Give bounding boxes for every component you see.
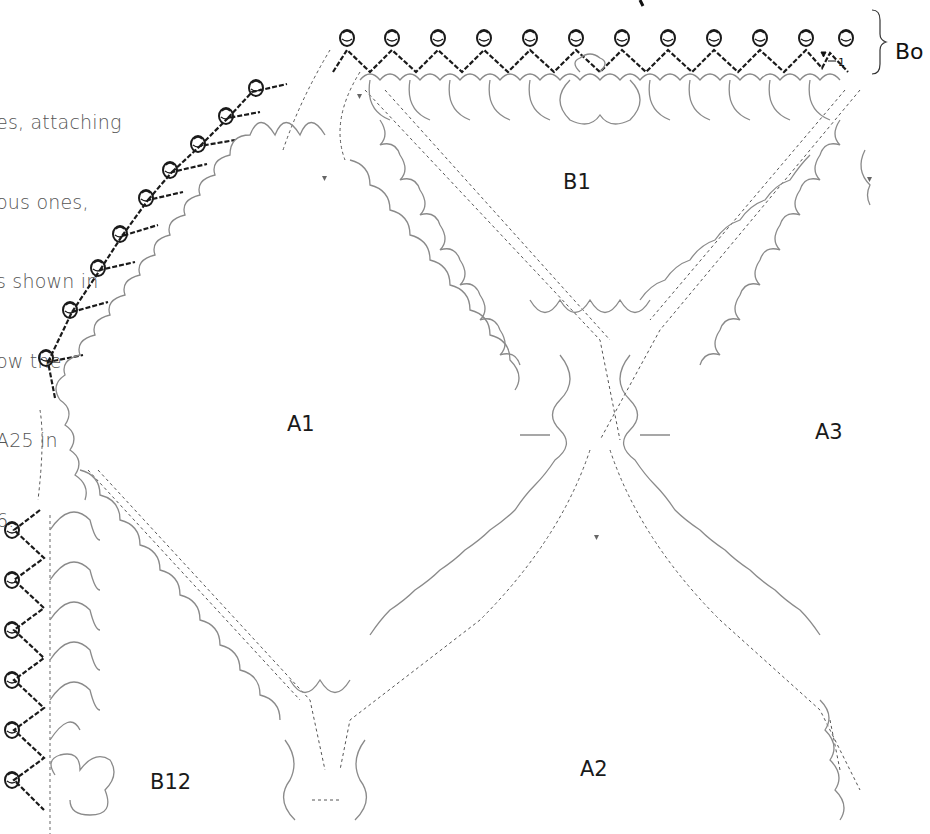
cropped-title-fragment: [640, 0, 643, 6]
left-border-row: [5, 510, 44, 810]
border-marker-number: 1: [838, 56, 845, 69]
top-border-row: [333, 30, 853, 72]
start-markers: [322, 94, 872, 540]
motif-label-a1: A1: [287, 412, 315, 436]
crochet-chart: 1: [0, 0, 930, 834]
motif-label-a3: A3: [815, 420, 843, 444]
join-guides: [38, 50, 860, 800]
diagonal-border-row: [39, 2, 290, 398]
motif-label-b12: B12: [150, 770, 191, 794]
border-label: Bo: [895, 39, 924, 64]
border-brace: [872, 10, 886, 74]
motif-label-b1: B1: [563, 170, 591, 194]
motif-label-a2: A2: [580, 757, 608, 781]
